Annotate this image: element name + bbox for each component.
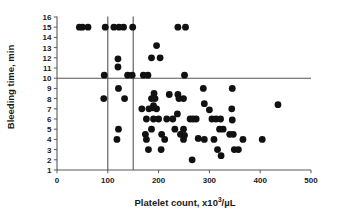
data-point — [235, 146, 242, 153]
x-axis-tick-label: 400 — [254, 176, 268, 185]
y-axis-tick-label: 1 — [47, 166, 52, 175]
data-point — [148, 126, 155, 133]
data-point — [174, 111, 181, 118]
x-axis-tick-label: 100 — [101, 176, 115, 185]
y-axis-tick-label: 10 — [43, 74, 52, 83]
data-point — [229, 117, 236, 124]
data-point — [201, 136, 208, 143]
data-point — [171, 126, 178, 133]
data-point — [181, 72, 188, 79]
data-point — [200, 85, 207, 92]
scatter-plot-figure: Bleeding time, min 123456789101112131415… — [0, 0, 342, 218]
data-point — [201, 100, 208, 107]
data-point — [169, 116, 176, 123]
data-point — [163, 116, 170, 123]
y-axis-tick-label: 11 — [43, 64, 52, 73]
data-point — [259, 136, 266, 143]
data-point — [230, 131, 237, 138]
data-point — [143, 116, 150, 123]
data-point — [240, 136, 247, 143]
y-axis-tick-label: 14 — [43, 33, 52, 42]
y-axis-tick-label: 13 — [43, 44, 52, 53]
data-point — [120, 24, 127, 31]
y-axis-tick-label: 5 — [47, 125, 52, 134]
data-point — [229, 85, 236, 92]
x-axis-tick-label: 300 — [203, 176, 217, 185]
data-point — [180, 95, 187, 102]
data-point — [195, 135, 202, 142]
data-point — [206, 106, 213, 113]
x-axis-tick-label: 200 — [152, 176, 166, 185]
y-axis-tick-label: 2 — [47, 156, 52, 165]
data-point — [182, 24, 189, 31]
data-point — [129, 72, 136, 79]
data-point — [228, 105, 235, 112]
data-point — [143, 136, 150, 143]
data-point — [101, 72, 108, 79]
data-point — [115, 126, 122, 133]
data-point — [129, 24, 136, 31]
data-point — [275, 101, 282, 108]
data-point — [153, 42, 160, 49]
y-axis-tick-label: 12 — [43, 54, 52, 63]
y-axis-tick-label: 3 — [47, 146, 52, 155]
data-point — [157, 54, 164, 61]
y-axis-tick-label: 7 — [47, 105, 52, 114]
data-point — [180, 136, 187, 143]
data-point — [214, 146, 221, 153]
data-point — [85, 24, 92, 31]
data-point — [220, 126, 227, 133]
data-point — [152, 95, 159, 102]
x-axis-tick-label: 500 — [304, 176, 318, 185]
data-point — [193, 116, 200, 123]
data-point — [189, 156, 196, 163]
data-point — [217, 116, 224, 123]
data-point — [155, 116, 162, 123]
data-point — [145, 72, 152, 79]
y-axis-tick-label: 8 — [47, 95, 52, 104]
data-point — [100, 95, 107, 102]
data-point — [114, 136, 121, 143]
data-point — [148, 54, 155, 61]
data-point — [218, 152, 225, 159]
data-point — [102, 24, 109, 31]
data-point — [115, 64, 122, 71]
data-point — [166, 91, 173, 98]
data-point — [115, 85, 122, 92]
data-point — [211, 136, 218, 143]
data-point — [115, 55, 122, 62]
plot-canvas: 123456789101112131415160100200300400500 — [0, 0, 342, 218]
data-point — [175, 24, 182, 31]
x-axis-title-text: Platelet count, x103/µL — [135, 197, 236, 208]
x-axis-tick-label: 0 — [55, 176, 60, 185]
data-point — [145, 146, 152, 153]
data-point — [138, 105, 145, 112]
data-point — [153, 105, 160, 112]
x-axis-title: Platelet count, x103/µL — [45, 196, 325, 208]
data-point — [121, 95, 128, 102]
y-axis-tick-label: 16 — [43, 13, 52, 22]
y-axis-tick-label: 6 — [47, 115, 52, 124]
data-point — [161, 136, 168, 143]
y-axis-tick-label: 9 — [47, 84, 52, 93]
data-point — [158, 146, 165, 153]
y-axis-tick-label: 15 — [43, 23, 52, 32]
y-axis-tick-label: 4 — [47, 135, 52, 144]
